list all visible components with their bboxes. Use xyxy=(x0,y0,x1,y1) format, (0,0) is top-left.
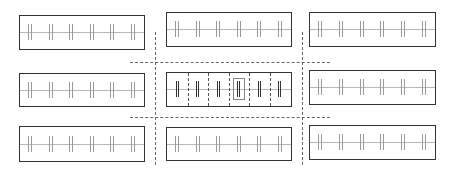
tick-mark xyxy=(401,79,405,95)
tick-mark xyxy=(380,21,384,37)
tick-mark xyxy=(196,21,200,37)
tick-mark xyxy=(196,136,200,152)
tick-mark xyxy=(422,79,426,95)
tick-mark xyxy=(69,136,73,152)
panel-middle-left xyxy=(19,73,145,107)
tick-mark xyxy=(28,136,32,152)
tick-mark xyxy=(422,134,426,150)
tick-mark xyxy=(278,21,282,37)
panel-middle-right xyxy=(309,70,436,105)
tick-mark xyxy=(380,79,384,95)
panel-top-right xyxy=(309,12,436,47)
axis-line xyxy=(20,90,144,91)
tick-mark xyxy=(258,81,261,97)
tick-mark xyxy=(216,21,220,37)
tick-mark xyxy=(237,136,241,152)
axis-line xyxy=(310,29,435,30)
tick-mark xyxy=(401,134,405,150)
cell-divider xyxy=(249,73,250,106)
dashed-divider-vertical xyxy=(302,32,303,165)
cell-divider xyxy=(270,73,271,106)
panel-bottom-center xyxy=(166,127,292,161)
cell-divider xyxy=(229,73,230,106)
axis-line xyxy=(310,87,435,88)
tick-mark xyxy=(237,21,241,37)
tick-mark xyxy=(339,134,343,150)
tick-mark xyxy=(422,21,426,37)
axis-line xyxy=(20,144,144,145)
tick-mark xyxy=(318,21,322,37)
axis-line xyxy=(20,32,144,33)
tick-mark xyxy=(110,82,114,98)
tick-mark xyxy=(28,82,32,98)
tiled-panel-diagram xyxy=(0,0,452,173)
tick-mark xyxy=(69,82,73,98)
tick-mark xyxy=(339,21,343,37)
tick-mark xyxy=(318,79,322,95)
tick-mark xyxy=(69,24,73,40)
tick-mark xyxy=(401,21,405,37)
tick-mark xyxy=(278,136,282,152)
tick-mark xyxy=(360,134,364,150)
axis-line xyxy=(310,142,435,143)
tick-mark xyxy=(49,24,53,40)
tick-mark xyxy=(380,134,384,150)
tick-mark xyxy=(175,136,179,152)
panel-bottom-left xyxy=(19,126,145,162)
dashed-divider-horizontal xyxy=(130,62,330,63)
panel-middle-center xyxy=(166,72,292,107)
tick-mark xyxy=(318,134,322,150)
tick-mark xyxy=(110,24,114,40)
tick-mark xyxy=(90,82,94,98)
tick-mark xyxy=(90,136,94,152)
cell-divider xyxy=(188,73,189,106)
panel-top-left xyxy=(19,15,145,50)
tick-mark xyxy=(196,81,199,97)
panel-bottom-right xyxy=(309,125,436,160)
tick-mark xyxy=(28,24,32,40)
tick-mark xyxy=(131,24,135,40)
tick-mark xyxy=(131,82,135,98)
tick-mark xyxy=(131,136,135,152)
panel-top-center xyxy=(166,12,292,47)
tick-mark xyxy=(90,24,94,40)
tick-mark xyxy=(237,81,240,97)
tick-mark xyxy=(257,136,261,152)
tick-mark xyxy=(278,81,281,97)
tick-mark xyxy=(49,82,53,98)
dashed-divider-vertical xyxy=(155,32,156,165)
tick-mark xyxy=(360,79,364,95)
tick-mark xyxy=(110,136,114,152)
tick-mark xyxy=(360,21,364,37)
tick-mark xyxy=(339,79,343,95)
tick-mark xyxy=(217,81,220,97)
tick-mark xyxy=(216,136,220,152)
tick-mark xyxy=(176,81,179,97)
axis-line xyxy=(167,29,291,30)
tick-mark xyxy=(257,21,261,37)
tick-mark xyxy=(49,136,53,152)
tick-mark xyxy=(175,21,179,37)
dashed-divider-horizontal xyxy=(130,117,330,118)
axis-line xyxy=(167,144,291,145)
cell-divider xyxy=(208,73,209,106)
